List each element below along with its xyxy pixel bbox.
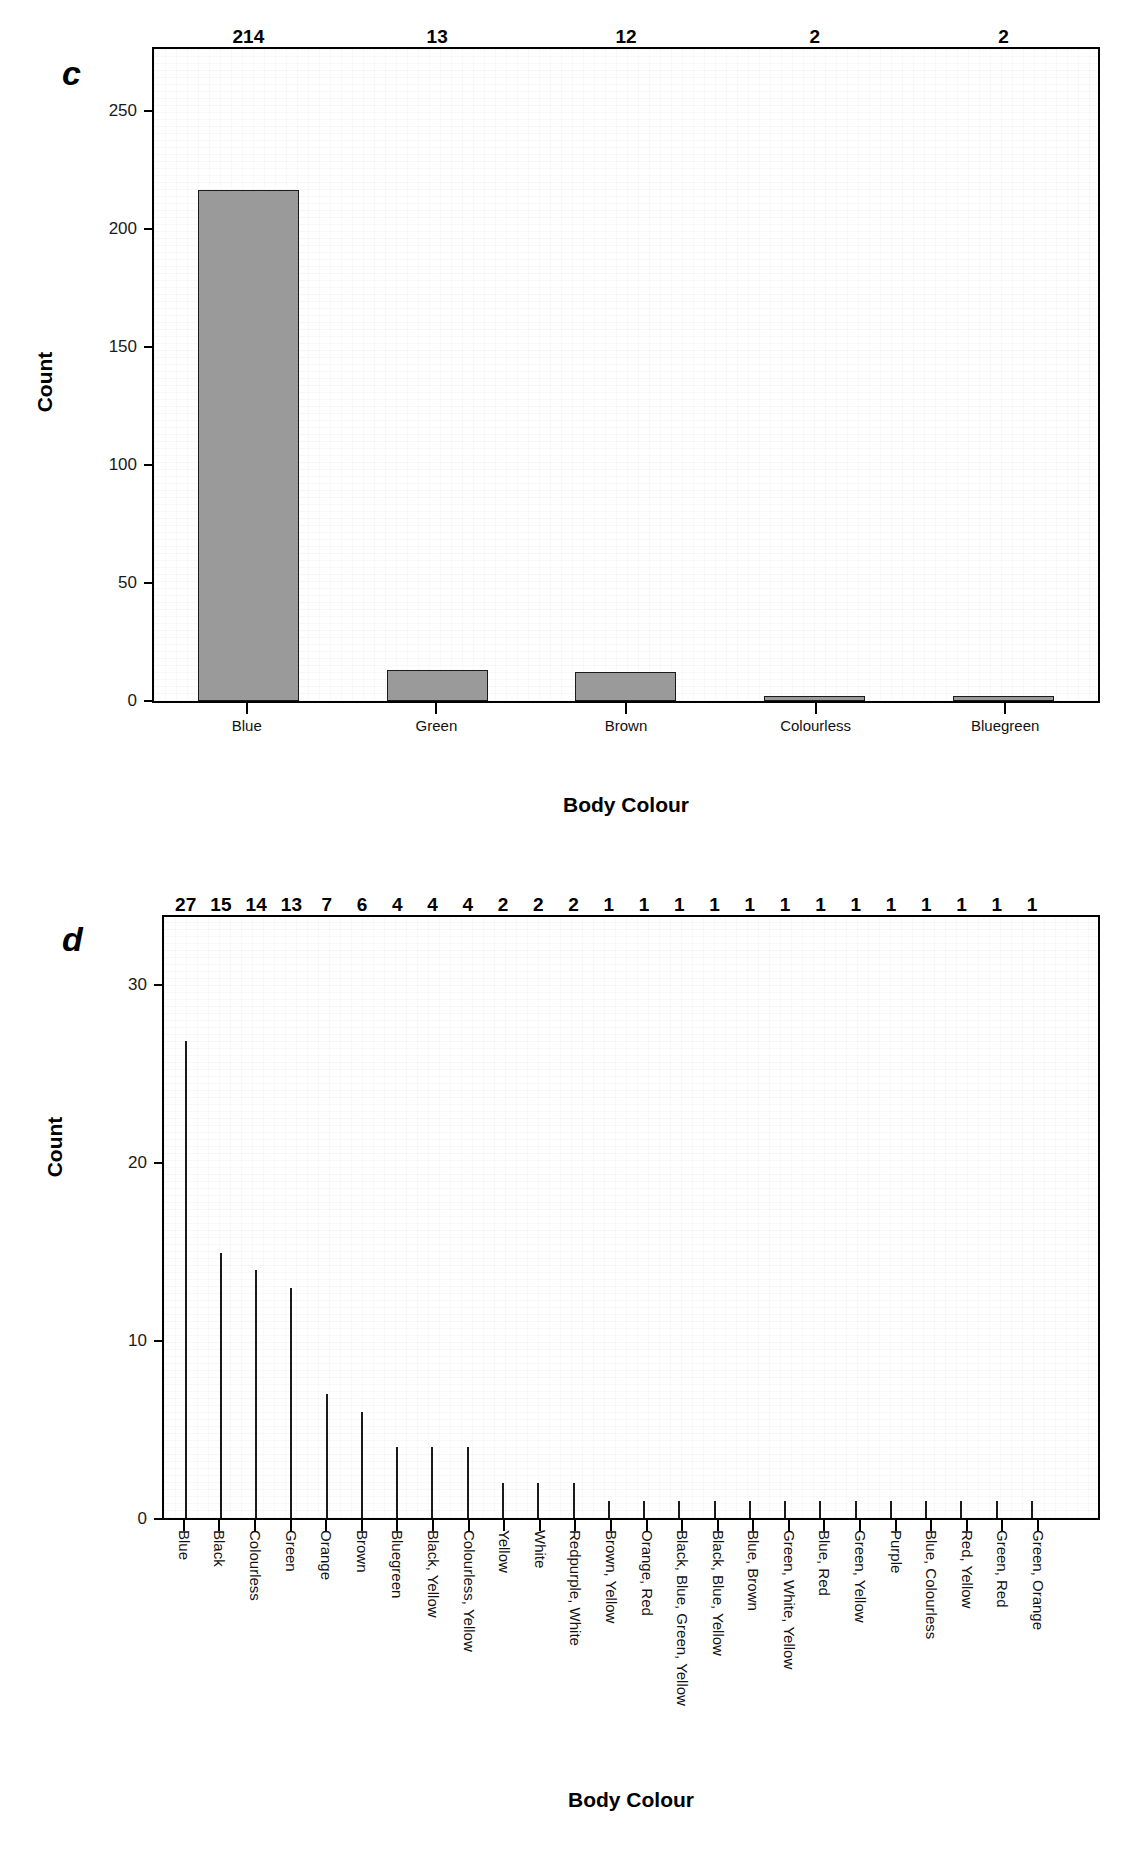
panel-d-bar-group: 1: [996, 917, 998, 1518]
panel-d-bar[interactable]: [855, 1501, 857, 1518]
panel-c-bar-value: 13: [427, 27, 448, 46]
panel-d-bar[interactable]: [1031, 1501, 1033, 1518]
panel-d-bar[interactable]: [326, 1394, 328, 1518]
panel-d-xtick: Blue, Colourless: [913, 1520, 949, 1770]
panel-c-xtick: Brown: [531, 703, 721, 749]
panel-d-bar-value: 4: [392, 895, 403, 914]
panel-c-bar[interactable]: [387, 670, 488, 701]
panel-d-xtick: Green, White, Yellow: [771, 1520, 807, 1770]
panel-d-xtick: Blue, Brown: [736, 1520, 772, 1770]
panel-d-x-category: Brown: [353, 1530, 370, 1573]
panel-d-x-category: Green, White, Yellow: [780, 1530, 797, 1669]
panel-d-x-category: Red, Yellow: [958, 1530, 975, 1608]
panel-d-bar[interactable]: [467, 1447, 469, 1518]
panel-d-bar-value: 1: [850, 895, 861, 914]
panel-d-x-category: Blue, Brown: [745, 1530, 762, 1611]
panel-d-bar-value: 1: [780, 895, 791, 914]
panel-c: c Count 250 200 150 100 50 0 214: [0, 0, 1147, 900]
tick-mark-icon: [435, 703, 437, 714]
tick-mark-icon: [625, 703, 627, 714]
panel-d-bar[interactable]: [925, 1501, 927, 1518]
panel-d-bar-group: 4: [396, 917, 398, 1518]
panel-d-xtick: Red, Yellow: [949, 1520, 985, 1770]
panel-d-bar-group: 1: [608, 917, 610, 1518]
panel-d-x-category: Blue: [175, 1530, 192, 1560]
panel-d-bar[interactable]: [255, 1270, 257, 1518]
panel-d-bar-group: 1: [749, 917, 751, 1518]
panel-c-bar[interactable]: [764, 696, 865, 701]
panel-d-bar[interactable]: [185, 1041, 187, 1518]
panel-d-bar[interactable]: [290, 1288, 292, 1518]
panel-d-bar-group: 4: [431, 917, 433, 1518]
panel-d-bar-group: 1: [960, 917, 962, 1518]
panel-d-bar-group: 6: [361, 917, 363, 1518]
panel-d-bar[interactable]: [784, 1501, 786, 1518]
panel-d-bar[interactable]: [960, 1501, 962, 1518]
panel-c-bar-group: 12: [536, 49, 715, 701]
panel-d-bars: 27 15 14 13 7: [168, 917, 1050, 1518]
panel-d-bar[interactable]: [678, 1501, 680, 1518]
panel-d-bar[interactable]: [396, 1447, 398, 1518]
panel-d-x-category: White: [531, 1530, 548, 1568]
panel-c-bar-group: 2: [914, 49, 1093, 701]
panel-d-plot-area: 27 15 14 13 7: [162, 915, 1100, 1520]
panel-d-xtick: Brown, Yellow: [593, 1520, 629, 1770]
panel-d-bar[interactable]: [431, 1447, 433, 1518]
panel-d-bar-value: 4: [427, 895, 438, 914]
panel-d-x-axis-label: Body Colour: [162, 1788, 1100, 1812]
panel-d-bar[interactable]: [502, 1483, 504, 1518]
panel-c-bar-value: 2: [809, 27, 820, 46]
figure-page: c Count 250 200 150 100 50 0 214: [0, 0, 1147, 1849]
panel-d-bar-group: 1: [784, 917, 786, 1518]
panel-c-x-axis: Blue Green Brown Colourless Bluegreen: [152, 703, 1100, 749]
panel-d-bar[interactable]: [361, 1412, 363, 1518]
panel-c-xtick: Colourless: [721, 703, 911, 749]
panel-d-bar[interactable]: [537, 1483, 539, 1518]
panel-d-xtick: Blue, Red: [807, 1520, 843, 1770]
panel-c-bar[interactable]: [575, 672, 676, 701]
tick-mark-icon: [815, 703, 817, 714]
panel-d-xtick: Colourless: [237, 1520, 273, 1770]
panel-c-bar[interactable]: [953, 696, 1054, 701]
panel-c-bar[interactable]: [198, 190, 299, 701]
panel-d-bar[interactable]: [890, 1501, 892, 1518]
panel-c-bar-value: 214: [233, 27, 265, 46]
panel-d-bar-value: 14: [246, 895, 267, 914]
panel-c-plot-area: 214 13 12 2 2: [152, 47, 1100, 703]
panel-d-bar-value: 7: [321, 895, 332, 914]
panel-d-ytick-label-30: 30: [103, 975, 147, 995]
panel-d-bar-value: 1: [815, 895, 826, 914]
panel-d-bar[interactable]: [749, 1501, 751, 1518]
panel-d-bar[interactable]: [220, 1253, 222, 1518]
panel-c-bar-group: 13: [348, 49, 527, 701]
panel-d-x-category: Green, Orange: [1030, 1530, 1047, 1630]
panel-d-bar[interactable]: [996, 1501, 998, 1518]
panel-d-bar[interactable]: [643, 1501, 645, 1518]
panel-d-xtick: Redpurple, White: [558, 1520, 594, 1770]
panel-c-ytick-label-250: 250: [93, 101, 137, 121]
panel-d-ytick-label-0: 0: [103, 1509, 147, 1529]
panel-d-bar-group: 14: [255, 917, 257, 1518]
tick-mark-icon: [1004, 703, 1006, 714]
panel-c-ytick-label-200: 200: [93, 219, 137, 239]
panel-d-bar[interactable]: [608, 1501, 610, 1518]
panel-d-bar-value: 1: [921, 895, 932, 914]
panel-d-xtick: Orange, Red: [629, 1520, 665, 1770]
panel-d-bar[interactable]: [573, 1483, 575, 1518]
panel-d-bar[interactable]: [714, 1501, 716, 1518]
panel-c-ytick-label-0: 0: [93, 691, 137, 711]
panel-d-bar-group: 1: [925, 917, 927, 1518]
panel-d-bar-group: 1: [855, 917, 857, 1518]
panel-d-xtick: White: [522, 1520, 558, 1770]
panel-d-x-category: Green, Yellow: [852, 1530, 869, 1623]
panel-d-bar-value: 2: [568, 895, 579, 914]
panel-d-bar-value: 1: [709, 895, 720, 914]
panel-d-x-category: Bluegreen: [389, 1530, 406, 1598]
panel-d-x-category: Orange, Red: [638, 1530, 655, 1616]
panel-d-xtick: Orange: [308, 1520, 344, 1770]
panel-d-bar-group: 2: [537, 917, 539, 1518]
panel-d-xtick: Black: [202, 1520, 238, 1770]
panel-d-bar[interactable]: [819, 1501, 821, 1518]
panel-d-xtick: Yellow: [486, 1520, 522, 1770]
panel-d-bar-group: 27: [185, 917, 187, 1518]
